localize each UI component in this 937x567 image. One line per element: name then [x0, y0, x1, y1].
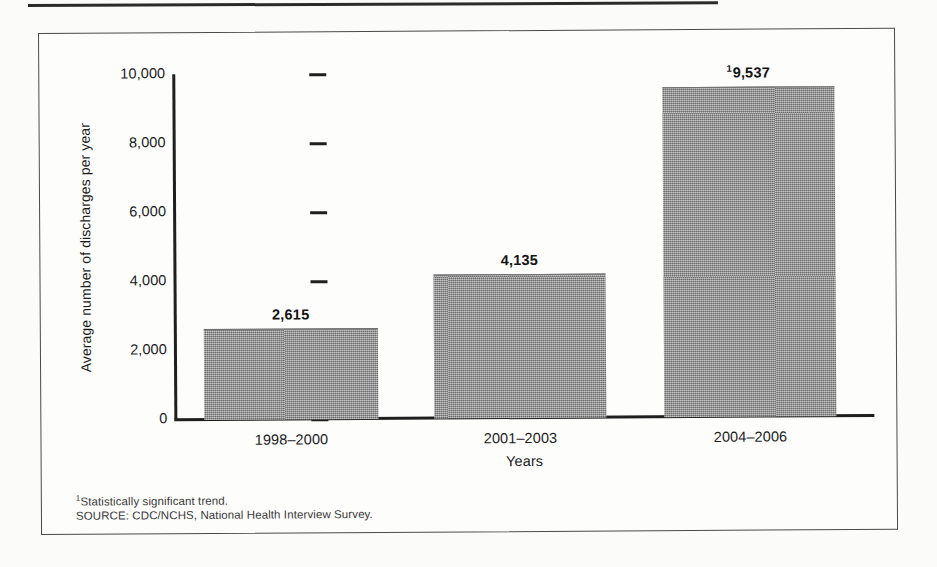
- bar-2004-2006[interactable]: 19,537 2004–2006: [662, 86, 836, 417]
- bar-value-label-2: 19,537: [727, 63, 770, 81]
- y-tick-label-0: 0: [159, 410, 167, 426]
- y-tick-label-2000: 2,000: [130, 341, 167, 357]
- bar-value-text-0: 2,615: [272, 306, 309, 322]
- x-tick-label-1: 2001–2003: [484, 430, 558, 446]
- figure-frame: Average number of discharges per year 0 …: [38, 28, 898, 535]
- bar-1998-2000[interactable]: 2,615 1998–2000: [204, 328, 379, 420]
- scanned-page: Average number of discharges per year 0 …: [0, 0, 937, 567]
- y-tick-label-10000: 10,000: [120, 65, 165, 81]
- bar-value-label-1: 4,135: [501, 252, 538, 268]
- y-axis-line: [172, 74, 177, 420]
- footnote-source: SOURCE: CDC/NCHS, National Health Interv…: [76, 507, 373, 523]
- bar-value-text-1: 4,135: [501, 252, 538, 268]
- y-axis-title: Average number of discharges per year: [75, 75, 95, 421]
- page-top-rule: [28, 1, 718, 7]
- footnotes: 1Statistically significant trend. SOURCE…: [76, 490, 373, 524]
- y-tick-label-6000: 6,000: [129, 203, 166, 219]
- footnote-marker-bar-2: 1: [727, 63, 733, 74]
- x-axis-title: Years: [175, 451, 875, 471]
- y-tick-label-8000: 8,000: [129, 134, 166, 150]
- bar-2001-2003[interactable]: 4,135 2001–2003: [433, 274, 606, 419]
- bar-value-label-0: 2,615: [272, 306, 309, 322]
- y-tick-label-4000: 4,000: [130, 272, 167, 288]
- footnote-trend: 1Statistically significant trend.: [76, 490, 373, 509]
- x-tick-label-2: 2004–2006: [714, 428, 788, 444]
- plot-area: Average number of discharges per year 0 …: [39, 29, 897, 534]
- x-tick-label-0: 1998–2000: [255, 431, 329, 447]
- bar-value-text-2: 9,537: [733, 65, 770, 81]
- footnote-trend-text: Statistically significant trend.: [80, 495, 228, 508]
